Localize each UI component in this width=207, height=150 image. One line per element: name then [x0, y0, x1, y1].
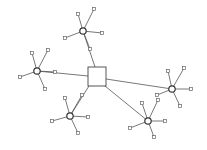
hub-top-node	[80, 28, 86, 34]
leaf-node	[77, 132, 80, 135]
leaf-node	[89, 48, 92, 51]
hub-bottom-left-node	[67, 113, 73, 119]
hub-bottom-right-node	[145, 118, 151, 124]
leaf-node	[64, 37, 67, 40]
leaf-node	[129, 127, 132, 130]
leaf-node	[167, 70, 170, 73]
leaf-node	[87, 116, 90, 119]
leaf-node	[54, 71, 57, 74]
center-node	[88, 67, 106, 86]
network-diagram	[0, 0, 207, 150]
leaf-node	[47, 49, 50, 52]
leaf-node	[156, 94, 159, 97]
hub-right-node	[169, 86, 175, 92]
leaf-node	[101, 32, 104, 35]
leaf-node	[157, 99, 160, 102]
leaf-node	[44, 88, 47, 91]
graph-svg	[0, 0, 207, 150]
leaf-node	[19, 76, 22, 79]
leaf-node	[183, 67, 186, 70]
nodes-layer	[19, 8, 193, 139]
leaf-node	[31, 52, 34, 55]
hub-left-node	[34, 68, 40, 74]
leaf-node	[93, 8, 96, 11]
leaf-node	[179, 105, 182, 108]
leaf-node	[141, 102, 144, 105]
leaf-node	[164, 120, 167, 123]
leaf-node	[153, 136, 156, 139]
leaf-node	[51, 120, 54, 123]
edge-center-hub-right	[106, 79, 172, 89]
leaf-node	[81, 94, 84, 97]
leaf-node	[190, 88, 193, 91]
leaf-node	[77, 13, 80, 16]
leaf-node	[64, 97, 67, 100]
